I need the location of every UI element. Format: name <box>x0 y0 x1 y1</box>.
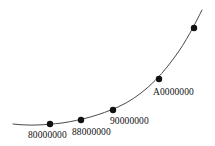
point-label-88000000: 88000000 <box>72 128 111 138</box>
data-point-marker <box>78 117 84 123</box>
chart-plot-area <box>0 0 215 146</box>
point-label-80000000: 80000000 <box>28 131 67 141</box>
data-point-marker <box>110 107 116 113</box>
point-label-90000000: 90000000 <box>110 117 149 127</box>
curve-line <box>13 10 202 125</box>
data-point-marker <box>191 25 197 31</box>
point-label-A0000000: A0000000 <box>153 88 194 98</box>
data-point-marker <box>156 76 162 82</box>
data-point-marker <box>47 121 53 127</box>
chart-figure: 80000000 88000000 90000000 A0000000 <box>0 0 215 146</box>
